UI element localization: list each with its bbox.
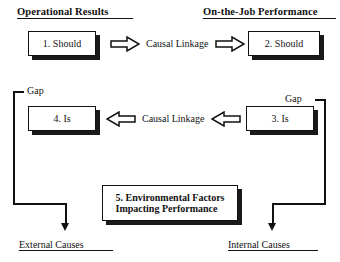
heading-operational-results-text: Operational Results — [17, 6, 108, 17]
box-3-is: 3. Is — [246, 106, 314, 131]
internal-causes-underline — [228, 250, 318, 251]
box-4-face: 4. Is — [28, 106, 96, 131]
box-1-face: 1. Should — [28, 31, 96, 56]
internal-causes-label: Internal Causes — [228, 239, 318, 251]
internal-causes-text: Internal Causes — [228, 239, 290, 250]
arrow-middle-right-icon — [211, 111, 241, 127]
external-causes-underline — [19, 250, 113, 251]
causal-linkage-top-text: Causal Linkage — [146, 38, 208, 49]
heading-on-the-job-performance: On-the-Job Performance — [203, 6, 336, 19]
gap-right-text: Gap — [285, 93, 302, 104]
box-5-face: 5. Environmental Factors Impacting Perfo… — [102, 185, 238, 221]
external-causes-text: External Causes — [19, 239, 84, 250]
box-3-face: 3. Is — [246, 106, 314, 131]
arrow-top-left-icon — [110, 36, 140, 52]
causal-linkage-diagram: Operational Results On-the-Job Performan… — [0, 0, 340, 262]
connector-left-vertical — [13, 91, 15, 205]
arrow-middle-left-icon — [106, 111, 136, 127]
box-5-label: 5. Environmental Factors Impacting Perfo… — [113, 192, 228, 215]
box-1-label: 1. Should — [40, 38, 84, 50]
box-4-label: 4. Is — [50, 113, 73, 125]
heading-on-the-job-performance-underline — [203, 18, 336, 19]
causal-linkage-middle-text: Causal Linkage — [142, 113, 204, 124]
heading-on-the-job-performance-text: On-the-Job Performance — [203, 6, 317, 17]
heading-operational-results: Operational Results — [17, 6, 133, 19]
box-2-face: 2. Should — [248, 31, 320, 56]
causal-linkage-top-label: Causal Linkage — [146, 38, 208, 49]
connector-left-down — [65, 203, 67, 225]
gap-left-label: Gap — [27, 85, 44, 96]
connector-left-horizontal — [13, 203, 67, 205]
arrow-top-right-icon — [215, 36, 245, 52]
box-1-should: 1. Should — [28, 31, 96, 56]
gap-right-label: Gap — [285, 93, 302, 104]
box-2-label: 2. Should — [262, 38, 306, 50]
heading-operational-results-underline — [17, 18, 133, 19]
connector-left-arrowhead — [61, 223, 69, 231]
connector-right-arrowhead — [268, 223, 276, 231]
connector-right-down — [272, 203, 274, 225]
box-3-label: 3. Is — [268, 113, 291, 125]
gap-left-text: Gap — [27, 85, 44, 96]
box-4-is: 4. Is — [28, 106, 96, 131]
causal-linkage-middle-label: Causal Linkage — [142, 113, 204, 124]
external-causes-label: External Causes — [19, 239, 113, 251]
connector-right-vertical — [324, 99, 326, 205]
box-2-should: 2. Should — [248, 31, 320, 56]
box-5-environmental-factors: 5. Environmental Factors Impacting Perfo… — [102, 185, 238, 221]
connector-right-horizontal — [272, 203, 326, 205]
